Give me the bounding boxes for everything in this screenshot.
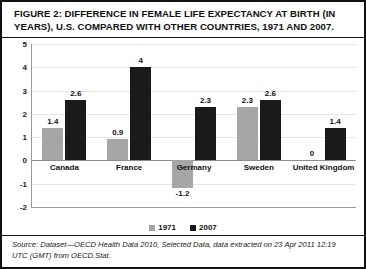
- source-note: Source: Dataset—OECD Health Data 2010, S…: [12, 240, 350, 261]
- bar-2007[interactable]: [260, 100, 281, 161]
- y-axis-tick-label: 1: [23, 133, 27, 142]
- bar-slot: 1.4: [325, 44, 346, 207]
- bar-slot: 0.9: [107, 44, 128, 207]
- bar-pair: 1.42.6: [32, 44, 97, 207]
- source-block: Source: Dataset—OECD Health Data 2010, S…: [2, 235, 364, 267]
- bar-slot: 1.4: [42, 44, 63, 207]
- x-axis-category-label: United Kingdom: [293, 163, 355, 172]
- y-axis-tick-label: -1: [20, 179, 27, 188]
- chart-region: 543210-1-2 1.42.6Canada0.94France-1.22.3…: [2, 38, 364, 214]
- bar-value-label: 2.3: [242, 96, 253, 105]
- bar-group: 0.94France: [97, 44, 162, 207]
- legend-swatch-icon: [149, 225, 155, 231]
- x-axis-category-label: Canada: [50, 163, 79, 172]
- figure-title-block: FIGURE 2: DIFFERENCE IN FEMALE LIFE EXPE…: [2, 2, 364, 38]
- legend-swatch-icon: [190, 225, 196, 231]
- bar-pair: 2.32.6: [226, 44, 291, 207]
- bar-2007[interactable]: [130, 67, 151, 160]
- bar-pair: 01.4: [291, 44, 356, 207]
- bar-value-label: 2.6: [265, 89, 276, 98]
- bar-2007[interactable]: [325, 128, 346, 161]
- legend-item[interactable]: 2007: [190, 223, 217, 232]
- bar-pair: 0.94: [97, 44, 162, 207]
- bar-group: -1.22.3Germany: [162, 44, 227, 207]
- legend-label: 1971: [158, 223, 176, 232]
- bar-slot: 2.3: [237, 44, 258, 207]
- y-axis-tick-label: 4: [23, 63, 27, 72]
- bar-value-label: 1.4: [47, 117, 58, 126]
- bar-value-label: -1.2: [176, 189, 190, 198]
- bar-1971[interactable]: [237, 107, 258, 161]
- bar-slot: 2.3: [195, 44, 216, 207]
- y-axis-tick-label: 0: [23, 156, 27, 165]
- bar-group: 1.42.6Canada: [32, 44, 97, 207]
- plot-area: 543210-1-2 1.42.6Canada0.94France-1.22.3…: [31, 44, 356, 208]
- bar-value-label: 0: [310, 149, 314, 158]
- bar-value-label: 1.4: [330, 117, 341, 126]
- bar-slot: 0: [302, 44, 323, 207]
- bar-slot: -1.2: [172, 44, 193, 207]
- y-axis-tick-label: -2: [20, 203, 27, 212]
- bar-group: 2.32.6Sweden: [226, 44, 291, 207]
- x-axis-category-label: Germany: [177, 163, 212, 172]
- bar-1971[interactable]: [107, 139, 128, 160]
- bar-value-label: 4: [138, 56, 142, 65]
- bar-value-label: 2.6: [70, 89, 81, 98]
- bar-pair: -1.22.3: [162, 44, 227, 207]
- bar-value-label: 2.3: [200, 96, 211, 105]
- bar-2007[interactable]: [65, 100, 86, 161]
- bar-groups: 1.42.6Canada0.94France-1.22.3Germany2.32…: [32, 44, 356, 207]
- y-axis-tick-label: 5: [23, 40, 27, 49]
- y-axis-tick-label: 2: [23, 109, 27, 118]
- chart-legend: 19712007: [2, 223, 364, 232]
- x-axis-category-label: France: [116, 163, 142, 172]
- bar-2007[interactable]: [195, 107, 216, 161]
- bar-1971[interactable]: [42, 128, 63, 161]
- x-axis-category-label: Sweden: [244, 163, 274, 172]
- page-title: FIGURE 2: DIFFERENCE IN FEMALE LIFE EXPE…: [14, 7, 354, 33]
- bar-slot: 4: [130, 44, 151, 207]
- bar-slot: 2.6: [260, 44, 281, 207]
- bar-value-label: 0.9: [112, 128, 123, 137]
- bar-slot: 2.6: [65, 44, 86, 207]
- bar-group: 01.4United Kingdom: [291, 44, 356, 207]
- figure-container: FIGURE 2: DIFFERENCE IN FEMALE LIFE EXPE…: [0, 0, 366, 269]
- y-axis-tick-label: 3: [23, 86, 27, 95]
- legend-label: 2007: [199, 223, 217, 232]
- legend-item[interactable]: 1971: [149, 223, 176, 232]
